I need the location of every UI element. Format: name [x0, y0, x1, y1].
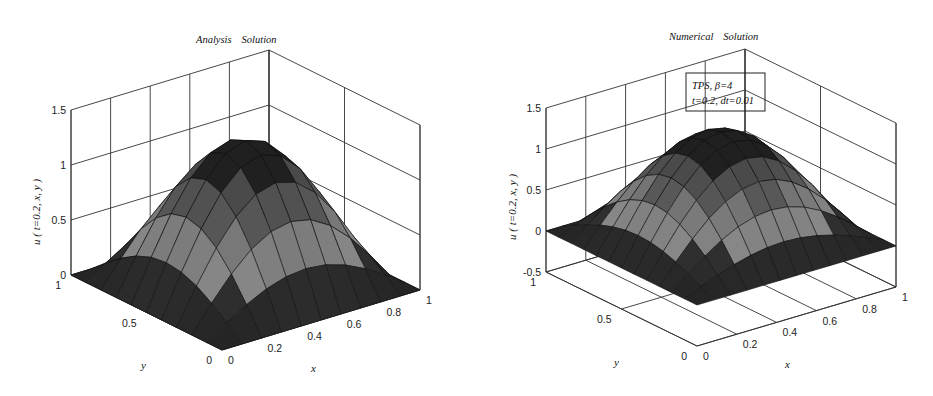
surface-mesh — [546, 128, 896, 305]
y-axis-label: y — [613, 356, 619, 368]
plot-title-analysis: AnalysisSolution — [195, 34, 277, 45]
legend-line-2: t=0.2, dt=0.01 — [692, 95, 754, 106]
figure-canvas: AnalysisSolution 00.511.500.20.40.60.810… — [0, 0, 933, 396]
tick-label: 1 — [902, 291, 908, 303]
tick-label: 1 — [530, 276, 536, 288]
tick-label: 1 — [426, 294, 432, 306]
tick-label: 0 — [681, 350, 687, 362]
tick-label: 0 — [535, 225, 541, 237]
tick-label: 0.5 — [122, 317, 137, 329]
tick-label: 1.5 — [51, 104, 66, 116]
tick-label: 0.8 — [386, 306, 401, 318]
tick-label: 0.2 — [743, 338, 758, 350]
tick-label: 0.6 — [347, 318, 362, 330]
tick-label: 0.5 — [597, 313, 612, 325]
y-axis-label: y — [140, 359, 146, 371]
tick-label: 1.5 — [526, 102, 541, 114]
tick-label: 0.6 — [822, 315, 837, 327]
tick-label: 0.5 — [526, 184, 541, 196]
z-axis-label: u ( t=0.2, x, y ) — [30, 179, 43, 245]
tick-label: 0 — [228, 354, 234, 366]
plot-title-numerical: NumericalSolution — [668, 31, 758, 42]
x-axis-label: x — [310, 362, 316, 374]
legend-line-1: TPS, β=4 — [692, 80, 733, 91]
tick-label: 0.2 — [268, 342, 283, 354]
tick-label: 0.4 — [307, 330, 322, 342]
tick-label: 1 — [60, 159, 66, 171]
analysis-solution-plot: AnalysisSolution 00.511.500.20.40.60.810… — [30, 34, 432, 374]
legend-box: TPS, β=4 t=0.2, dt=0.01 — [686, 73, 765, 111]
tick-label: 0.5 — [51, 214, 66, 226]
tick-label: 0 — [206, 354, 212, 366]
x-axis-label: x — [784, 358, 790, 370]
tick-label: 1 — [55, 279, 61, 291]
z-axis-label: u ( t=0.2, x, y ) — [506, 174, 519, 240]
numerical-solution-plot: NumericalSolution -0.500.511.500.20.40.6… — [506, 31, 908, 370]
tick-label: 0 — [60, 269, 66, 281]
tick-label: 0.4 — [783, 326, 798, 338]
tick-label: 1 — [535, 143, 541, 155]
tick-label: 0 — [703, 350, 709, 362]
tick-label: 0.8 — [862, 303, 877, 315]
